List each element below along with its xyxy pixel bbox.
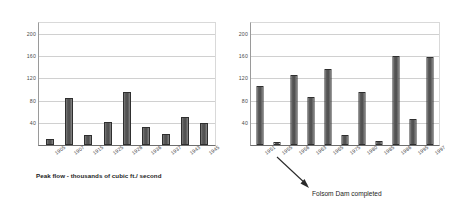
bar	[291, 75, 298, 145]
bar-series-left: 190519071915192519281936193719431945	[40, 23, 214, 145]
x-axis-tick-label: 1980	[365, 144, 378, 156]
bar	[142, 127, 150, 145]
folsom-dam-annotation-label: Folsom Dam completed	[312, 190, 382, 197]
plot-area-right: 4080120160200 19511955195619631965197519…	[250, 22, 440, 146]
bar	[274, 142, 281, 145]
x-axis-tick-label: 1905	[53, 144, 66, 156]
y-axis-tick-label: 160	[239, 53, 248, 59]
bar-series-right: 1951195519561963196519751980198519861995…	[252, 23, 438, 145]
y-axis-tick-label: 120	[27, 75, 36, 81]
bar	[392, 56, 399, 145]
bar	[426, 57, 433, 145]
bar-group: 1986	[387, 23, 404, 145]
bar	[65, 98, 73, 145]
x-axis-tick-label: 1925	[111, 144, 124, 156]
x-axis-tick-label: 1956	[298, 144, 311, 156]
bar	[46, 139, 54, 145]
x-axis-tick-label: 1936	[150, 144, 163, 156]
bar	[375, 141, 382, 145]
x-axis-tick-label: 1907	[73, 144, 86, 156]
bar	[325, 69, 332, 145]
x-axis-tick-label: 1997	[433, 144, 446, 156]
y-axis-tick-label: 200	[239, 31, 248, 37]
x-axis-tick-label: 1915	[92, 144, 105, 156]
y-axis-tick-label: 40	[242, 120, 248, 126]
bar-group: 1928	[117, 23, 136, 145]
bar-group: 1975	[337, 23, 354, 145]
bar	[84, 135, 92, 145]
bar	[162, 134, 170, 145]
bar	[104, 122, 112, 145]
bar	[123, 92, 131, 145]
plot-area-left: 4080120160200 19051907191519251928193619…	[38, 22, 216, 146]
bar-group: 1965	[320, 23, 337, 145]
bar-group: 1963	[303, 23, 320, 145]
chart-panel-left: 4080120160200 19051907191519251928193619…	[0, 0, 228, 209]
bar	[181, 117, 189, 145]
y-axis-tick-label: 120	[239, 75, 248, 81]
x-axis-tick-label: 1963	[315, 144, 328, 156]
x-axis-tick-label: 1937	[169, 144, 182, 156]
bar	[200, 123, 208, 145]
bar-group: 1951	[252, 23, 269, 145]
x-axis-tick-label: 1975	[349, 144, 362, 156]
bar	[257, 86, 264, 145]
y-axis-tick-label: 80	[30, 98, 36, 104]
folsom-dam-arrow-icon	[276, 156, 316, 192]
bar	[409, 119, 416, 145]
bar-group: 1995	[404, 23, 421, 145]
y-axis-tick-label: 40	[30, 120, 36, 126]
bar-group: 1905	[40, 23, 59, 145]
x-axis-tick-label: 1986	[399, 144, 412, 156]
chart-caption: Peak flow - thousands of cubic ft./ seco…	[36, 172, 162, 179]
bar-group: 1937	[156, 23, 175, 145]
x-axis-tick-label: 1965	[332, 144, 345, 156]
x-axis-tick-label: 1951	[264, 144, 277, 156]
x-axis-tick-label: 1943	[189, 144, 202, 156]
x-axis-tick-label: 1945	[208, 144, 221, 156]
bar-group: 1925	[98, 23, 117, 145]
bar	[308, 97, 315, 145]
y-axis-tick-label: 160	[27, 53, 36, 59]
x-axis-tick-label: 1995	[416, 144, 429, 156]
bar-group: 1955	[269, 23, 286, 145]
peak-flow-figure: 4080120160200 19051907191519251928193619…	[0, 0, 458, 209]
bar-group: 1915	[79, 23, 98, 145]
x-axis-tick-label: 1955	[281, 144, 294, 156]
bar-group: 1936	[137, 23, 156, 145]
bar-group: 1945	[195, 23, 214, 145]
bar	[358, 92, 365, 145]
y-axis-tick-label: 200	[27, 31, 36, 37]
y-axis-tick-label: 80	[242, 98, 248, 104]
bar-group: 1907	[59, 23, 78, 145]
bar	[341, 135, 348, 145]
bar-group: 1943	[175, 23, 194, 145]
bar-group: 1980	[353, 23, 370, 145]
x-axis-tick-label: 1985	[382, 144, 395, 156]
chart-panel-right: 4080120160200 19511955195619631965197519…	[228, 0, 458, 209]
bar-group: 1997	[421, 23, 438, 145]
bar-group: 1985	[370, 23, 387, 145]
x-axis-tick-label: 1928	[131, 144, 144, 156]
bar-group: 1956	[286, 23, 303, 145]
